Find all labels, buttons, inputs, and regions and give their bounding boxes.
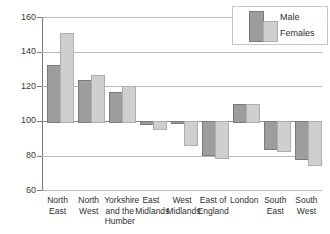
x-axis-label-line: West (291, 206, 322, 217)
bar-male (140, 121, 154, 126)
x-axis-label: Yorkshireand theHumber (104, 195, 135, 227)
x-axis-label-line: Yorkshire (104, 195, 135, 206)
bar-group (171, 17, 197, 190)
legend-swatch-female (263, 21, 278, 42)
x-axis-label-line: North (73, 195, 104, 206)
bar-male (109, 92, 123, 123)
bar-female (184, 121, 198, 146)
bar-male (264, 121, 278, 151)
bar-male (233, 104, 247, 123)
bar-female (91, 75, 105, 123)
bar-female (308, 121, 322, 166)
legend-label-male: Male (280, 12, 300, 22)
y-axis-labels: 160 140 120 100 80 60 (0, 0, 36, 234)
x-axis-label: WestMidlands (166, 195, 197, 216)
x-axis-label-line: South (260, 195, 291, 206)
bar-male (295, 121, 309, 160)
x-axis-label-line: East (135, 195, 166, 206)
x-axis-label-line: Midlands (135, 206, 166, 217)
y-tick-label-120: 120 (2, 82, 36, 91)
x-axis-label: NorthEast (42, 195, 73, 216)
y-tick-label-160: 160 (2, 13, 36, 22)
bar-group (78, 17, 104, 190)
bar-group (109, 17, 135, 190)
x-axis-label-line: East (260, 206, 291, 217)
bar-female (122, 86, 136, 123)
x-axis-label-line: England (198, 206, 229, 217)
bar-female (246, 104, 260, 123)
x-axis-label: SouthWest (291, 195, 322, 216)
y-tick-label-80: 80 (2, 151, 36, 160)
bar-female (277, 121, 291, 152)
x-axis-label-line: North (42, 195, 73, 206)
x-axis-label: SouthEast (260, 195, 291, 216)
legend-label-female: Females (280, 28, 315, 38)
bar-male (171, 121, 185, 124)
y-tick-label-140: 140 (2, 47, 36, 56)
y-tick-label-100: 100 (2, 116, 36, 125)
x-axis-label: London (229, 195, 260, 206)
x-axis-label-line: East of (198, 195, 229, 206)
legend-swatch-male (249, 11, 264, 42)
legend: Male Females (232, 6, 328, 45)
x-axis-label-line: Midlands (166, 206, 197, 217)
x-axis-label-line: East (42, 206, 73, 217)
x-axis-label-line: London (229, 195, 260, 206)
x-axis-label-line: and the (104, 206, 135, 217)
bar-female (60, 33, 74, 123)
x-axis-label: NorthWest (73, 195, 104, 216)
x-axis-label-line: Humber (104, 216, 135, 227)
x-axis-label-line: South (291, 195, 322, 206)
bar-group (47, 17, 73, 190)
bar-female (153, 121, 167, 130)
y-tick-label-60: 60 (2, 186, 36, 195)
gridline-60 (42, 190, 322, 191)
bar-female (215, 121, 229, 159)
bar-group (140, 17, 166, 190)
x-axis-label: East ofEngland (198, 195, 229, 216)
bar-male (202, 121, 216, 156)
x-axis-label: EastMidlands (135, 195, 166, 216)
bar-group (202, 17, 228, 190)
x-axis-label-line: West (73, 206, 104, 217)
bar-male (47, 65, 61, 122)
x-axis-label-line: West (166, 195, 197, 206)
x-axis-labels: NorthEastNorthWestYorkshireand theHumber… (42, 195, 322, 234)
bar-male (78, 80, 92, 123)
bar-chart: 160 140 120 100 80 60 NorthEastNorthWest… (0, 0, 330, 234)
